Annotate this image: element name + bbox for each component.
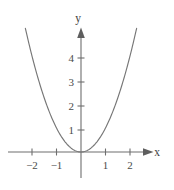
parabola-figure: −2 −1 1 2 1 2 3 4 y x	[0, 0, 174, 190]
x-axis-label: x	[154, 146, 160, 158]
y-axis-label: y	[75, 12, 81, 25]
y-tick-label-3: 3	[69, 76, 75, 88]
y-tick-label-1: 1	[69, 124, 75, 136]
y-axis-arrow-icon	[77, 28, 85, 39]
x-axis-arrow-icon	[143, 148, 154, 156]
y-tick-label-4: 4	[69, 52, 75, 64]
x-tick-label--1: −1	[51, 159, 63, 171]
plot-canvas: −2 −1 1 2 1 2 3 4 y x	[0, 0, 174, 190]
x-tick-label-2: 2	[127, 159, 133, 171]
x-tick-label-1: 1	[103, 159, 109, 171]
y-tick-label-2: 2	[69, 100, 75, 112]
x-tick-label--2: −2	[26, 159, 38, 171]
